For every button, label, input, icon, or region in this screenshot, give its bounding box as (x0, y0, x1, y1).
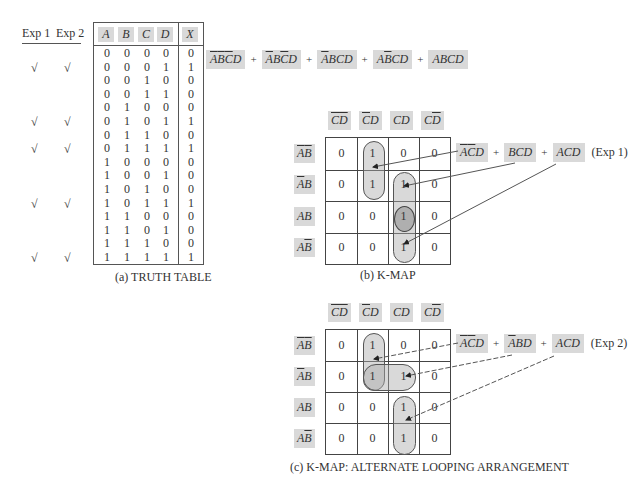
arrow-b-term3 (404, 164, 556, 244)
arrow-b-term2 (404, 163, 515, 186)
arrow-c-term1 (374, 343, 458, 359)
arrow-c-term2 (406, 355, 512, 376)
arrow-c-term3 (406, 356, 554, 420)
leader-arrows (0, 0, 633, 490)
arrow-b-term1 (373, 151, 458, 167)
